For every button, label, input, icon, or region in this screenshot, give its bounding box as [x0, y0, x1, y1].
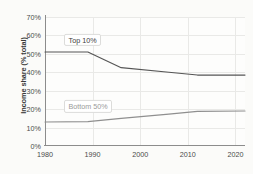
- y-tick-label: 50%: [27, 49, 41, 58]
- y-tick-label: 10%: [27, 123, 41, 132]
- x-tick-label: 2000: [132, 150, 148, 159]
- x-tick-label: 1980: [37, 150, 53, 159]
- y-tick-label: 40%: [27, 68, 41, 77]
- series-label-bottom-50: Bottom 50%: [64, 100, 112, 112]
- plot-area: 0%10%20%30%40%50%60%70% 1980199020002010…: [45, 17, 245, 146]
- series-line: [45, 111, 245, 122]
- y-tick-label: 70%: [27, 13, 41, 22]
- y-tick-label: 30%: [27, 86, 41, 95]
- series-label-top-10: Top 10%: [64, 34, 101, 46]
- x-tick-label: 2020: [227, 150, 243, 159]
- y-tick-label: 60%: [27, 31, 41, 40]
- income-share-line-chart: Income share (% total) 0%10%20%30%40%50%…: [0, 0, 253, 174]
- x-tick-label: 2010: [180, 150, 196, 159]
- x-tick-label: 1990: [85, 150, 101, 159]
- y-tick-label: 20%: [27, 105, 41, 114]
- series-line: [45, 52, 245, 75]
